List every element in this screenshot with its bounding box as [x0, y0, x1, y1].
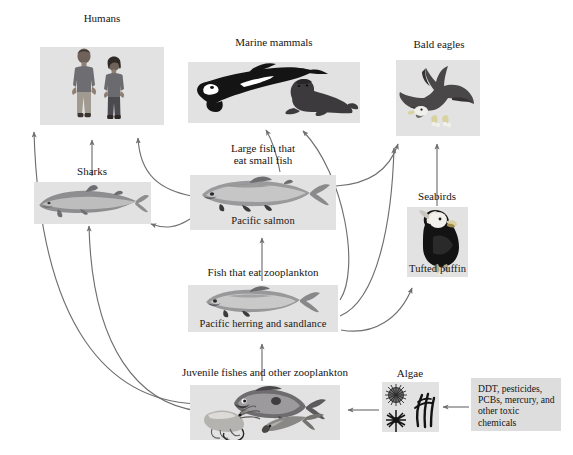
large-fish-label: Large fish that eat small fish	[190, 142, 336, 166]
two-people-illustration	[40, 47, 164, 125]
juvenile-zooplankton-label: Juvenile fishes and other zooplankton	[155, 366, 375, 378]
arrow-large-fish-to-bald-eagles	[336, 144, 398, 186]
orca-and-sea-lion-illustration	[188, 62, 360, 123]
herring-illustration	[188, 285, 338, 319]
zooplankton-fish-image-box: Pacific herring and sandlance	[188, 285, 338, 332]
food-web-diagram: Humans	[0, 0, 573, 455]
humans-label: Humans	[40, 12, 164, 24]
marine-mammals-image-box	[188, 62, 360, 123]
arrow-herring-to-bald-eagles	[340, 148, 394, 316]
zooplankton-fish-label: Fish that eat zooplankton	[170, 266, 356, 278]
shark-illustration	[34, 182, 151, 224]
juvenile-fish-and-krill-illustration	[190, 385, 340, 440]
sharks-label: Sharks	[40, 165, 144, 177]
bald-eagles-image-box	[396, 60, 480, 136]
large-fish-caption: Pacific salmon	[190, 215, 336, 227]
juvenile-zooplankton-image-box	[190, 385, 340, 440]
algae-label: Algae	[382, 367, 438, 379]
large-fish-image-box: Pacific salmon	[190, 175, 336, 230]
zooplankton-fish-caption: Pacific herring and sandlance	[188, 318, 338, 330]
humans-image-box	[40, 47, 164, 125]
marine-mammals-label: Marine mammals	[188, 36, 360, 48]
bald-eagle-illustration	[396, 60, 480, 136]
arrow-large-fish-to-sharks	[151, 219, 190, 227]
seabirds-label: Seabirds	[398, 190, 476, 202]
arrow-herring-to-seabirds	[341, 288, 412, 331]
seabirds-image-box: Tufted puffin	[407, 207, 468, 277]
sharks-image-box	[34, 182, 151, 224]
salmon-illustration	[190, 175, 336, 215]
bald-eagles-label: Bald eagles	[393, 38, 485, 50]
arrow-zooplankton-to-sharks	[89, 226, 199, 411]
seabirds-caption: Tufted puffin	[407, 263, 468, 275]
algae-illustration	[382, 382, 439, 432]
algae-image-box	[382, 382, 439, 432]
toxic-chemicals-box: DDT, pesticides, PCBs, mercury, and othe…	[471, 378, 561, 431]
